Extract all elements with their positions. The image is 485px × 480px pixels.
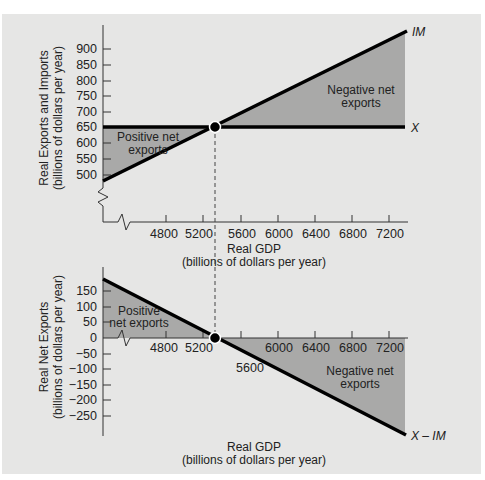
y-axis-title: Real Exports and Imports [37,50,51,185]
x-tick-label: 5600 [228,227,256,241]
chart-canvas: 900 850 800 750 700 650 600 550 500 4800… [0,0,485,480]
negative-net-exports-label-2: exports [340,377,379,391]
y-tick-label: 100 [76,300,97,314]
top-y-tick-labels: 900 850 800 750 700 650 600 550 500 [76,42,97,182]
x-tick-label-5600: 5600 [236,361,264,375]
y-tick-label: 900 [76,42,97,56]
y-tick-label: 50 [83,315,97,329]
x-tick-label: 7200 [376,227,404,241]
x-series-label: X [410,121,420,135]
y-tick-label: −50 [76,347,97,361]
bottom-y-tick-labels: 150 100 50 0 −50 −100 −150 −200 −250 [69,284,97,423]
y-tick-label: 500 [76,168,97,182]
y-tick-label: 700 [76,105,97,119]
x-axis-subtitle: (billions of dollars per year) [182,453,326,467]
y-tick-label: −100 [69,362,97,376]
x-tick-label: 6800 [339,227,367,241]
y-tick-label: 550 [76,152,97,166]
y-tick-label: −200 [69,393,97,407]
y-tick-label: 750 [76,89,97,103]
x-tick-label: 5200 [185,341,213,355]
top-y-axis-title: Real Exports and Imports (billions of do… [37,46,65,190]
x-tick-label: 6000 [265,341,293,355]
positive-net-exports-label: Positive net [117,130,180,144]
x-tick-label: 7200 [376,341,404,355]
x-axis-title: Real GDP [227,242,281,256]
bottom-y-axis-title: Real Net Exports (billions of dollars pe… [37,275,65,419]
bottom-equilibrium-point [210,333,221,344]
y-axis-subtitle: (billions of dollars per year) [51,46,65,190]
y-tick-label: −250 [69,409,97,423]
top-y-axis [98,25,108,222]
x-tick-label: 5200 [185,227,213,241]
top-x-ticks [166,215,389,222]
y-tick-label: 0 [90,331,97,345]
top-chart: 900 850 800 750 700 650 600 550 500 4800… [37,25,425,269]
y-tick-label: 650 [76,120,97,134]
y-tick-label: 600 [76,136,97,150]
top-equilibrium-point [210,122,221,133]
x-tick-label: 6400 [302,341,330,355]
x-tick-label: 4800 [150,341,178,355]
x-tick-label: 6800 [339,341,367,355]
top-x-tick-labels: 4800 5200 5600 6000 6400 6800 7200 [150,227,404,241]
y-tick-label: 850 [76,58,97,72]
y-tick-label: 150 [76,284,97,298]
bottom-x-axis-title: Real GDP (billions of dollars per year) [182,440,326,467]
net-exports-series-label: X – IM [410,429,446,443]
positive-net-exports-label-2: net exports [109,316,168,330]
x-tick-label: 6000 [265,227,293,241]
im-series-label: IM [412,25,425,39]
negative-net-exports-label: Negative net [326,364,394,378]
negative-net-exports-label-2: exports [341,96,380,110]
bottom-chart: 150 100 50 0 −50 −100 −150 −200 −250 480… [37,267,446,467]
x-tick-label: 4800 [150,227,178,241]
y-axis-title: Real Net Exports [37,302,51,393]
y-tick-label: −150 [69,378,97,392]
x-axis-title: Real GDP [227,440,281,454]
positive-net-exports-label-2: exports [128,143,167,157]
x-axis-subtitle: (billions of dollars per year) [182,255,326,269]
x-tick-label: 6400 [302,227,330,241]
y-tick-label: 800 [76,74,97,88]
y-axis-subtitle: (billions of dollars per year) [51,275,65,419]
top-x-axis-title: Real GDP (billions of dollars per year) [182,242,326,269]
negative-net-exports-label: Negative net [327,83,395,97]
